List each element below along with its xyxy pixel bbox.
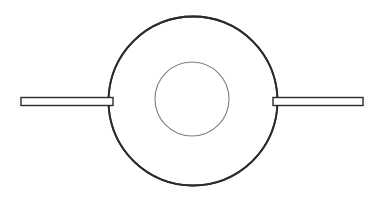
right-shaft bbox=[273, 98, 363, 106]
left-shaft bbox=[21, 98, 113, 106]
line-drawing: Line drawing of a circular body with two… bbox=[0, 0, 384, 202]
drawing-canvas: Line drawing of a circular body with two… bbox=[0, 0, 384, 202]
